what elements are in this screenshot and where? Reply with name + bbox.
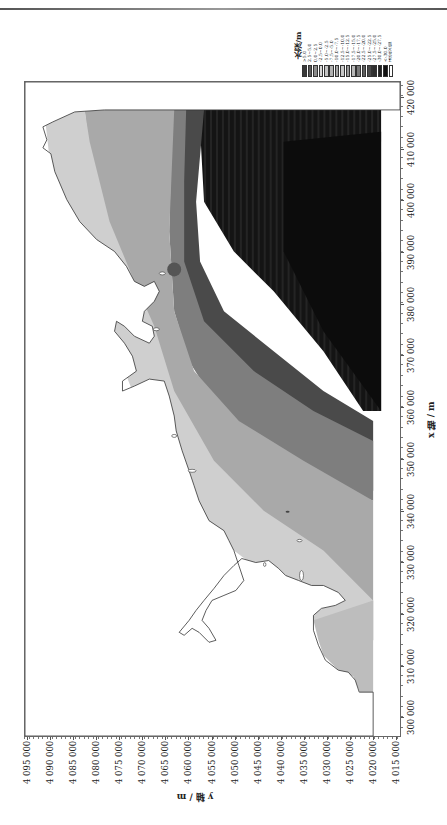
x-minor-tick bbox=[401, 706, 403, 707]
x-minor-tick bbox=[401, 313, 403, 314]
x-minor-tick bbox=[401, 375, 403, 376]
x-minor-tick bbox=[401, 333, 403, 334]
y-minor-tick bbox=[263, 737, 264, 739]
y-minor-tick bbox=[272, 737, 273, 739]
legend-swatch bbox=[319, 65, 324, 77]
y-minor-tick bbox=[355, 737, 356, 739]
x-tick bbox=[401, 200, 404, 201]
x-minor-tick bbox=[401, 292, 403, 293]
x-minor-tick bbox=[401, 427, 403, 428]
y-minor-tick bbox=[323, 737, 324, 739]
x-tick bbox=[401, 511, 404, 512]
y-minor-tick bbox=[42, 737, 43, 739]
x-minor-tick bbox=[401, 685, 403, 686]
x-minor-tick bbox=[401, 85, 403, 86]
x-minor-tick bbox=[401, 220, 403, 221]
legend-swatch bbox=[372, 65, 377, 77]
y-minor-tick bbox=[24, 737, 25, 739]
x-minor-tick bbox=[401, 364, 403, 365]
x-minor-tick bbox=[401, 240, 403, 241]
y-minor-tick bbox=[190, 737, 191, 739]
y-minor-tick bbox=[392, 737, 393, 739]
x-tick bbox=[401, 666, 404, 667]
y-tick-label: 4 025 000 bbox=[345, 742, 356, 784]
x-minor-tick bbox=[401, 520, 403, 521]
x-tick bbox=[401, 562, 404, 563]
x-minor-tick bbox=[401, 540, 403, 541]
y-tick-label: 4 015 000 bbox=[391, 742, 402, 784]
legend-swatch bbox=[324, 65, 329, 77]
y-tick-label: 4 050 000 bbox=[230, 742, 241, 784]
y-tick-label: 4 085 000 bbox=[68, 742, 79, 784]
x-minor-tick bbox=[401, 458, 403, 459]
y-minor-tick bbox=[157, 737, 158, 739]
x-tick bbox=[401, 614, 404, 615]
y-minor-tick bbox=[33, 737, 34, 739]
y-minor-tick bbox=[65, 737, 66, 739]
x-tick bbox=[401, 407, 404, 408]
x-minor-tick bbox=[401, 582, 403, 583]
x-tick-label: 330 000 bbox=[406, 540, 416, 584]
x-minor-tick bbox=[401, 551, 403, 552]
y-minor-tick bbox=[29, 737, 30, 739]
y-minor-tick bbox=[121, 737, 122, 739]
y-minor-tick bbox=[374, 737, 375, 739]
y-tick-label: 4 030 000 bbox=[322, 742, 333, 784]
y-minor-tick bbox=[111, 737, 112, 739]
y-minor-tick bbox=[93, 737, 94, 739]
x-minor-tick bbox=[401, 654, 403, 655]
legend-swatch bbox=[308, 65, 313, 77]
y-minor-tick bbox=[84, 737, 85, 739]
y-minor-tick bbox=[88, 737, 89, 739]
x-minor-tick bbox=[401, 634, 403, 635]
x-minor-tick bbox=[401, 199, 403, 200]
x-minor-tick bbox=[401, 603, 403, 604]
x-minor-tick bbox=[401, 716, 403, 717]
y-minor-tick bbox=[56, 737, 57, 739]
y-minor-tick bbox=[185, 737, 186, 739]
y-minor-tick bbox=[125, 737, 126, 739]
x-minor-tick bbox=[401, 489, 403, 490]
y-minor-tick bbox=[98, 737, 99, 739]
y-minor-tick bbox=[305, 737, 306, 739]
y-minor-tick bbox=[286, 737, 287, 739]
y-minor-tick bbox=[397, 737, 398, 739]
y-tick-label: 4 020 000 bbox=[368, 742, 379, 784]
legend-item: 未定义值 bbox=[388, 28, 393, 80]
x-minor-tick bbox=[401, 509, 403, 510]
x-minor-tick bbox=[401, 137, 403, 138]
x-minor-tick bbox=[401, 271, 403, 272]
y-minor-tick bbox=[47, 737, 48, 739]
y-minor-tick bbox=[341, 737, 342, 739]
y-minor-tick bbox=[75, 737, 76, 739]
y-minor-tick bbox=[213, 737, 214, 739]
x-minor-tick bbox=[401, 613, 403, 614]
x-tick-label: 360 000 bbox=[406, 385, 416, 429]
y-tick-label: 4 065 000 bbox=[160, 742, 171, 784]
x-minor-tick bbox=[401, 209, 403, 210]
y-minor-tick bbox=[199, 737, 200, 739]
y-tick-label: 4 045 000 bbox=[253, 742, 264, 784]
legend-swatch bbox=[340, 65, 345, 77]
y-minor-tick bbox=[309, 737, 310, 739]
y-minor-tick bbox=[107, 737, 108, 739]
x-tick-label: 420 000 bbox=[406, 75, 416, 119]
y-minor-tick bbox=[254, 737, 255, 739]
y-minor-tick bbox=[364, 737, 365, 739]
y-tick-label: 4 080 000 bbox=[91, 742, 102, 784]
x-minor-tick bbox=[401, 230, 403, 231]
x-tick-label: 340 000 bbox=[406, 489, 416, 533]
x-minor-tick bbox=[401, 696, 403, 697]
y-tick-label: 4 075 000 bbox=[114, 742, 125, 784]
x-tick bbox=[401, 717, 404, 718]
x-minor-tick bbox=[401, 530, 403, 531]
y-tick-label: 4 090 000 bbox=[45, 742, 56, 784]
y-minor-tick bbox=[328, 737, 329, 739]
y-minor-tick bbox=[70, 737, 71, 739]
y-axis: 4 095 0004 090 0004 085 0004 080 0004 07… bbox=[24, 737, 401, 787]
y-minor-tick bbox=[226, 737, 227, 739]
y-minor-tick bbox=[249, 737, 250, 739]
x-tick-label: 320 000 bbox=[406, 592, 416, 636]
y-minor-tick bbox=[194, 737, 195, 739]
x-minor-tick bbox=[401, 251, 403, 252]
